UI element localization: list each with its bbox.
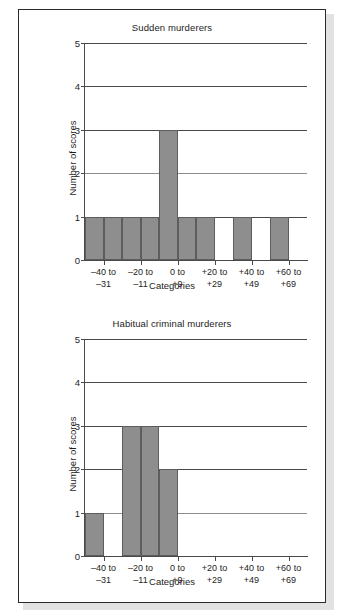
y-tick-mark-4 [81, 86, 85, 87]
plot-area: 5 4 3 2 1 0 –40 to–31–20 to–110 to+9+20 … [85, 339, 307, 556]
bar [178, 217, 197, 260]
gridline-3 [85, 426, 307, 427]
y-tick-label-5: 5 [75, 334, 80, 345]
y-tick-mark-2 [81, 173, 85, 174]
y-tick-label-1: 1 [75, 507, 80, 518]
gridline-4 [85, 382, 307, 383]
bar [122, 217, 141, 260]
gridline-2 [85, 173, 307, 174]
figure-page: Sudden murderers Number of scores 5 4 3 [0, 0, 338, 615]
x-tick-mark [178, 261, 179, 265]
gridline-1 [85, 513, 307, 514]
x-tick-mark [141, 261, 142, 265]
x-tick-mark [252, 557, 253, 561]
bar [104, 217, 123, 260]
x-tick-mark [104, 261, 105, 265]
y-tick-label-4: 4 [75, 377, 80, 388]
y-tick-mark-4 [81, 382, 85, 383]
x-tick-mark [215, 557, 216, 561]
y-tick-label-2: 2 [75, 464, 80, 475]
x-axis-label: Categories [19, 576, 325, 587]
x-tick-mark [215, 261, 216, 265]
x-tick-label-line1: +60 to [276, 563, 301, 573]
y-tick-label-0: 0 [75, 551, 80, 562]
y-tick-mark-3 [81, 130, 85, 131]
bar [141, 426, 160, 556]
chart-title: Habitual criminal murderers [19, 318, 325, 329]
x-tick-label-line1: 0 to [170, 563, 185, 573]
x-tick-mark [104, 557, 105, 561]
y-tick-mark-5 [81, 43, 85, 44]
gridline-4 [85, 86, 307, 87]
y-tick-label-0: 0 [75, 255, 80, 266]
plot-area: 5 4 3 2 1 0 –40 to–31–20 to–110 to+9+20 … [85, 43, 307, 260]
x-tick-mark [178, 557, 179, 561]
bar [270, 217, 289, 260]
bar [141, 217, 160, 260]
y-tick-label-3: 3 [75, 420, 80, 431]
bar [233, 217, 252, 260]
gridline-3 [85, 130, 307, 131]
y-tick-mark-3 [81, 426, 85, 427]
bar [159, 469, 178, 556]
y-tick-mark-0 [81, 260, 85, 261]
bar [85, 217, 104, 260]
x-axis-label: Categories [19, 280, 325, 291]
chart-title: Sudden murderers [19, 22, 325, 33]
x-axis-line [84, 260, 308, 261]
gridline-5 [85, 339, 307, 340]
bar [85, 513, 104, 556]
x-tick-mark [289, 261, 290, 265]
bar [196, 217, 215, 260]
y-tick-label-5: 5 [75, 38, 80, 49]
x-tick-mark [289, 557, 290, 561]
bar [159, 130, 178, 260]
bar [122, 426, 141, 556]
y-tick-mark-0 [81, 556, 85, 557]
chart-sudden-murderers: Sudden murderers Number of scores 5 4 3 [19, 10, 325, 306]
figure-frame: Sudden murderers Number of scores 5 4 3 [18, 9, 326, 603]
y-tick-label-1: 1 [75, 211, 80, 222]
y-tick-mark-2 [81, 469, 85, 470]
x-tick-mark [252, 261, 253, 265]
x-tick-mark [141, 557, 142, 561]
x-tick-label-line1: 0 to [170, 267, 185, 277]
x-tick-label-line1: +60 to [276, 267, 301, 277]
chart-habitual-criminal-murderers: Habitual criminal murderers Number of sc… [19, 306, 325, 602]
y-tick-label-3: 3 [75, 124, 80, 135]
gridline-2 [85, 469, 307, 470]
y-tick-label-4: 4 [75, 81, 80, 92]
y-tick-mark-5 [81, 339, 85, 340]
x-axis-line [84, 556, 308, 557]
y-tick-label-2: 2 [75, 168, 80, 179]
gridline-5 [85, 43, 307, 44]
